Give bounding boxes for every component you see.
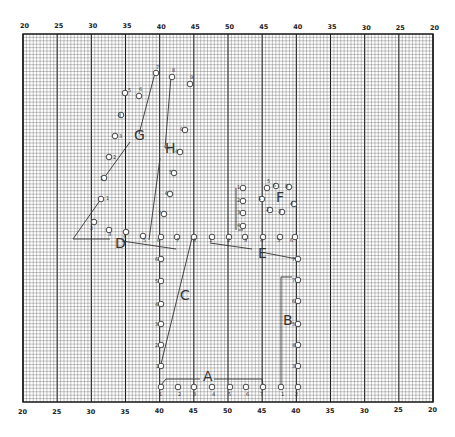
top-tick-label: 30: [88, 22, 98, 30]
point-marker: [240, 185, 246, 191]
point-number: 3: [278, 208, 281, 214]
point-number: 7: [176, 237, 179, 243]
point-number: 1: [106, 195, 109, 201]
top-tick-label: 40: [157, 23, 167, 31]
top-tick-label: 40: [293, 23, 303, 31]
group-label-f: F: [276, 189, 284, 205]
point-marker: [264, 185, 270, 191]
bottom-tick-label: 40: [291, 407, 301, 415]
point-marker: [158, 384, 164, 390]
top-tick-label: 20: [430, 24, 440, 32]
point-marker: [158, 256, 164, 262]
point-number: 3: [119, 133, 122, 139]
point-number: 4: [290, 200, 293, 206]
point-number: 5: [228, 391, 231, 397]
point-number: 3: [292, 363, 295, 369]
point-number: 4: [118, 112, 121, 118]
point-number: 2: [113, 154, 116, 160]
point-number: 4: [292, 342, 295, 348]
point-marker: [260, 384, 266, 390]
graph-paper-diagram: 20253035404550454035302520 2025303540455…: [0, 0, 455, 437]
point-number: 6: [292, 298, 295, 304]
point-number: 4: [260, 237, 263, 243]
bottom-axis-ticks: 20253035404550454035302520: [18, 406, 438, 416]
point-marker: [240, 210, 246, 216]
point-marker: [209, 384, 215, 390]
point-number: 8: [193, 237, 196, 243]
point-marker: [295, 363, 301, 369]
bottom-tick-label: 50: [223, 407, 233, 415]
point-marker: [295, 342, 301, 348]
point-number: 9: [190, 74, 193, 80]
point-marker: [295, 256, 301, 262]
point-number: 2: [237, 197, 240, 203]
top-tick-label: 35: [328, 23, 338, 31]
point-marker: [278, 384, 284, 390]
point-number: 2: [295, 391, 298, 397]
top-tick-label: 45: [259, 23, 269, 31]
bottom-tick-label: 35: [121, 408, 131, 416]
point-number: 2: [90, 225, 93, 231]
point-marker: [240, 198, 246, 204]
point-number: 7: [292, 277, 295, 283]
point-marker: [227, 384, 233, 390]
top-tick-label: 35: [123, 22, 133, 30]
point-number: 1: [156, 363, 159, 369]
point-marker: [240, 223, 246, 229]
top-tick-label: 45: [191, 23, 201, 31]
point-marker: [122, 90, 128, 96]
point-number: 2: [266, 206, 269, 212]
point-marker: [295, 298, 301, 304]
point-number: 3: [237, 209, 240, 215]
point-marker: [243, 384, 249, 390]
point-number: 6: [273, 182, 276, 188]
bottom-tick-label: 25: [52, 408, 62, 416]
point-number: 6: [246, 391, 249, 397]
top-tick-label: 50: [225, 23, 235, 31]
point-number: 1: [209, 237, 212, 243]
point-marker: [295, 277, 301, 283]
point-marker: [106, 154, 112, 160]
point-marker: [295, 384, 301, 390]
point-marker: [161, 211, 167, 217]
point-marker: [153, 70, 159, 76]
bottom-tick-label: 40: [155, 407, 165, 415]
point-number: 6: [139, 86, 142, 92]
point-marker: [91, 219, 97, 225]
group-label-a: A: [203, 368, 213, 384]
point-number: 6: [290, 237, 293, 243]
data-points: 1234567121234563456771234567812345678994…: [90, 64, 301, 397]
group-label-c: C: [180, 287, 190, 303]
bottom-tick-label: 20: [428, 406, 438, 414]
point-number: 8: [172, 67, 175, 73]
point-number: 2: [178, 391, 181, 397]
bottom-tick-label: 20: [18, 408, 28, 416]
point-number: 3: [244, 237, 247, 243]
point-number: 9: [180, 126, 183, 132]
group-label-b: B: [283, 312, 293, 328]
top-tick-label: 25: [396, 24, 406, 32]
point-marker: [295, 321, 301, 327]
bottom-tick-label: 35: [326, 407, 336, 415]
point-marker: [98, 196, 104, 202]
point-number: 4: [237, 222, 240, 228]
grid: [23, 34, 433, 402]
top-tick-label: 25: [54, 22, 64, 30]
group-label-e: E: [258, 245, 267, 261]
point-number: 3: [155, 321, 158, 327]
point-number: 5: [143, 237, 146, 243]
point-marker: [158, 342, 164, 348]
point-number: 5: [169, 169, 172, 175]
bottom-tick-label: 45: [257, 407, 267, 415]
point-number: 8: [285, 183, 288, 189]
point-marker: [158, 321, 164, 327]
point-number: 1: [100, 175, 103, 181]
point-number: 1: [258, 195, 261, 201]
group-label-h: H: [165, 140, 176, 156]
point-number: 7: [292, 256, 295, 262]
point-number: 5: [128, 87, 131, 93]
point-number: 3: [108, 231, 111, 237]
point-number: 7: [158, 210, 161, 216]
point-number: 5: [277, 237, 280, 243]
point-marker: [169, 74, 175, 80]
